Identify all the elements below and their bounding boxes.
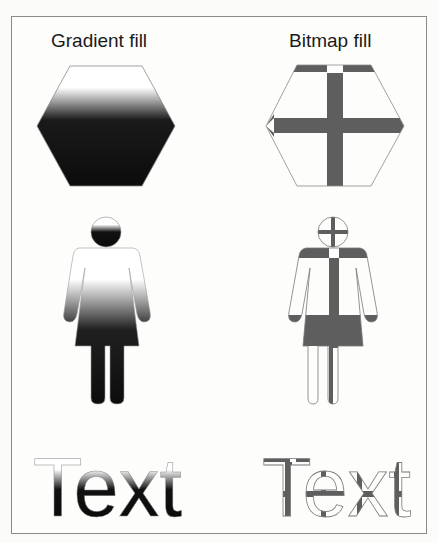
bitmap-sample-text: Text	[255, 441, 420, 534]
fill-illustration: Text	[0, 0, 438, 543]
svg-text:Text: Text	[262, 441, 411, 534]
gradient-woman-figure	[64, 217, 151, 404]
gradient-hexagon	[37, 66, 175, 186]
bitmap-woman-figure	[285, 215, 385, 406]
bitmap-hexagon	[260, 65, 414, 193]
gradient-sample-text: Text	[33, 441, 182, 534]
